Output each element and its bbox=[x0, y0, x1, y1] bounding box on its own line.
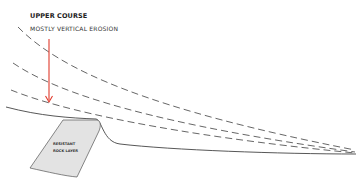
diagram-subtitle: MOSTLY VERTICAL EROSION bbox=[30, 25, 118, 32]
diagram-title: UPPER COURSE bbox=[30, 12, 87, 20]
rock-layer-label: RESISTANT ROCK LAYER bbox=[53, 141, 93, 155]
rock-label-line1: RESISTANT bbox=[53, 141, 93, 148]
rock-label-line2: ROCK LAYER bbox=[53, 148, 93, 155]
river-profile-diagram: UPPER COURSE MOSTLY VERTICAL EROSION RES… bbox=[0, 0, 359, 186]
